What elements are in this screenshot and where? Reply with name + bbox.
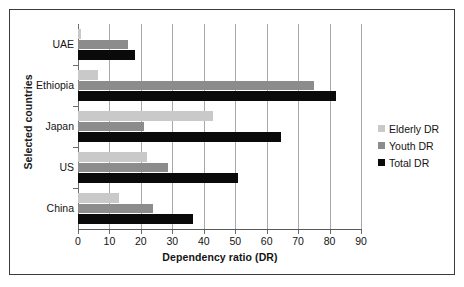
gridline-50 xyxy=(235,24,236,229)
legend-swatch-icon xyxy=(378,125,385,132)
x-tick-label-90: 90 xyxy=(346,235,376,247)
y-tick-2 xyxy=(73,106,78,107)
gridline-30 xyxy=(172,24,173,229)
x-tick-label-30: 30 xyxy=(157,235,187,247)
bar-japan-youth-dr xyxy=(78,122,144,132)
bar-us-elderly-dr xyxy=(78,152,147,162)
chart-legend: Elderly DRYouth DRTotal DR xyxy=(378,120,439,171)
plot-area xyxy=(78,24,361,229)
legend-label: Elderly DR xyxy=(389,123,439,135)
category-label-uae: UAE xyxy=(12,38,74,50)
x-tick-60 xyxy=(267,230,268,234)
x-tick-20 xyxy=(141,230,142,234)
chart-figure: Selected countries 0102030405060708090 U… xyxy=(0,0,464,287)
x-tick-10 xyxy=(109,230,110,234)
bar-us-total-dr xyxy=(78,173,238,183)
bar-ethiopia-total-dr xyxy=(78,91,336,101)
bar-uae-youth-dr xyxy=(78,40,128,50)
bar-ethiopia-elderly-dr xyxy=(78,70,98,80)
x-tick-label-70: 70 xyxy=(283,235,313,247)
x-tick-label-80: 80 xyxy=(315,235,345,247)
bar-uae-elderly-dr xyxy=(78,29,81,39)
legend-label: Total DR xyxy=(389,157,429,169)
y-tick-1 xyxy=(73,65,78,66)
gridline-40 xyxy=(204,24,205,229)
x-tick-30 xyxy=(172,230,173,234)
bar-china-youth-dr xyxy=(78,204,153,214)
y-tick-4 xyxy=(73,188,78,189)
category-label-japan: Japan xyxy=(12,120,74,132)
category-label-china: China xyxy=(12,202,74,214)
x-tick-90 xyxy=(361,230,362,234)
gridline-80 xyxy=(330,24,331,229)
legend-swatch-icon xyxy=(378,142,385,149)
legend-swatch-icon xyxy=(378,159,385,166)
legend-item-total-dr[interactable]: Total DR xyxy=(378,154,439,171)
bar-ethiopia-youth-dr xyxy=(78,81,314,91)
x-tick-label-20: 20 xyxy=(126,235,156,247)
bar-uae-total-dr xyxy=(78,50,135,60)
bar-china-total-dr xyxy=(78,214,193,224)
x-tick-label-10: 10 xyxy=(94,235,124,247)
x-tick-70 xyxy=(298,230,299,234)
gridline-60 xyxy=(267,24,268,229)
x-tick-label-0: 0 xyxy=(63,235,93,247)
bar-japan-total-dr xyxy=(78,132,281,142)
bar-china-elderly-dr xyxy=(78,193,119,203)
x-axis-title: Dependency ratio (DR) xyxy=(78,251,362,263)
x-tick-50 xyxy=(235,230,236,234)
bar-japan-elderly-dr xyxy=(78,111,213,121)
bar-us-youth-dr xyxy=(78,163,168,173)
x-tick-label-50: 50 xyxy=(220,235,250,247)
gridline-90 xyxy=(361,24,362,229)
category-label-us: US xyxy=(12,161,74,173)
x-tick-80 xyxy=(330,230,331,234)
x-tick-label-60: 60 xyxy=(252,235,282,247)
x-tick-label-40: 40 xyxy=(189,235,219,247)
x-axis-line xyxy=(78,229,362,230)
x-tick-0 xyxy=(78,230,79,234)
gridline-70 xyxy=(298,24,299,229)
category-label-ethiopia: Ethiopia xyxy=(12,79,74,91)
legend-label: Youth DR xyxy=(389,140,434,152)
legend-item-elderly-dr[interactable]: Elderly DR xyxy=(378,120,439,137)
x-tick-40 xyxy=(204,230,205,234)
y-tick-3 xyxy=(73,147,78,148)
legend-item-youth-dr[interactable]: Youth DR xyxy=(378,137,439,154)
